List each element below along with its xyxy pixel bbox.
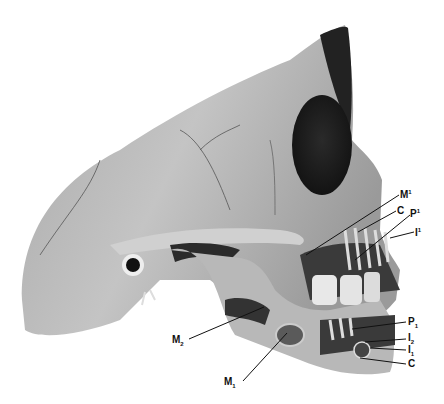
label-upper-canine: C [397, 206, 404, 216]
skull-illustration: M1 C P1 I1 P1 I2 I1 C M2 M1 [0, 0, 444, 404]
label-lower-m1: M1 [224, 377, 236, 389]
skull-drawing [0, 0, 444, 404]
label-lower-m2: M2 [172, 335, 184, 347]
label-upper-p1: P1 [410, 208, 420, 219]
upper-molars [312, 275, 337, 305]
orbit [292, 95, 352, 195]
label-upper-m1: M1 [400, 189, 412, 200]
label-lower-i1: I1 [408, 345, 414, 357]
label-lower-canine: C [408, 359, 415, 369]
label-lower-p1: P1 [408, 317, 418, 329]
label-upper-i1: I1 [415, 227, 421, 238]
